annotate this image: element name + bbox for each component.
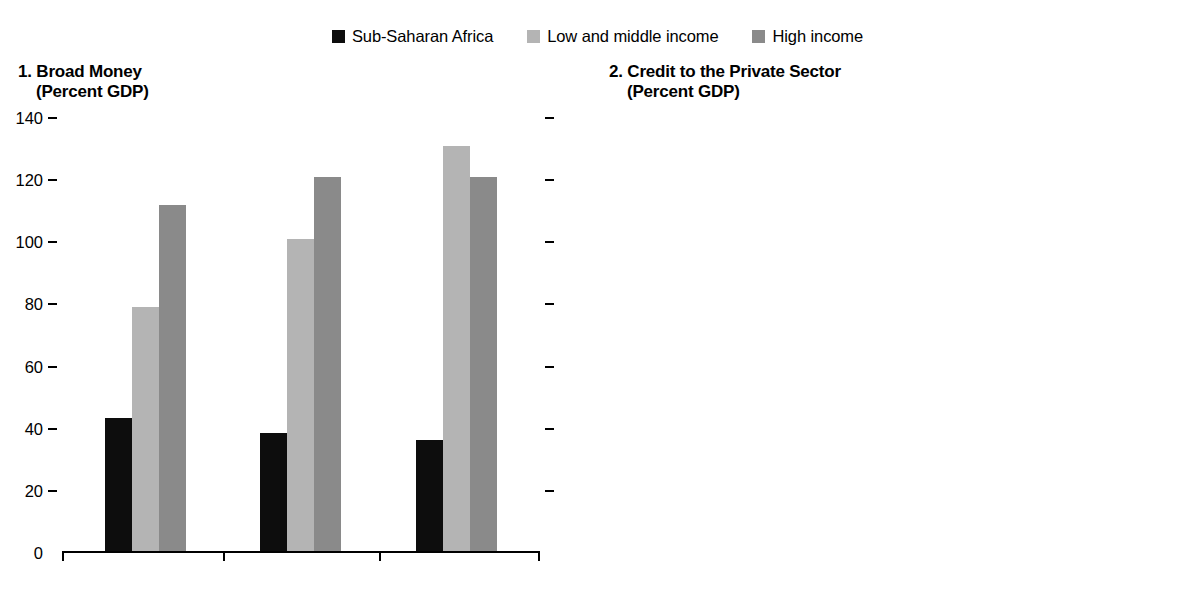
panel-title: 2. Credit to the Private Sector [609,62,841,82]
panel-broad-money: 1. Broad Money (Percent GDP) 02040608010… [0,0,600,598]
y-axis-tick-label: 20 [25,483,43,500]
y-axis-tick-label: 60 [25,358,43,375]
bar [287,239,314,551]
x-axis-line [62,551,540,553]
bar [132,307,159,551]
panel-title: 1. Broad Money [18,62,142,82]
y-axis-tick-mirror [545,428,554,430]
y-axis-tick [48,428,57,430]
y-axis-tick-label: 100 [15,234,43,251]
bar [470,177,497,551]
y-axis-tick-mirror [545,179,554,181]
bar-group [416,118,497,551]
figure-container: Sub-Saharan Africa Low and middle income… [0,0,1195,598]
x-axis-group-tick [223,553,225,561]
y-axis-tick-label: 80 [25,296,43,313]
y-axis-tick-mirror [545,303,554,305]
bar-group [105,118,186,551]
axis-end-tick [538,553,540,561]
bar-group [260,118,341,551]
y-axis-tick-mirror [545,117,554,119]
y-axis-tick-label: 0 [34,545,43,562]
y-axis-tick [48,117,57,119]
y-axis-tick [48,303,57,305]
y-axis-tick-mirror [545,490,554,492]
y-axis-tick-mirror [545,366,554,368]
bar [260,433,287,551]
y-axis-tick [48,179,57,181]
plot-area-broad-money: 02040608010012014020081216 [62,118,540,553]
y-axis-tick [48,241,57,243]
bar [105,418,132,551]
y-axis-tick-label: 120 [15,172,43,189]
bar [416,440,443,551]
y-axis-tick [48,366,57,368]
panel-subtitle: (Percent GDP) [36,82,149,102]
y-axis-tick [48,490,57,492]
bar [159,205,186,551]
bar [443,146,470,551]
y-axis-tick-mirror [545,241,554,243]
y-axis-tick-label: 140 [15,110,43,127]
bar [314,177,341,551]
y-axis-tick-label: 40 [25,420,43,437]
x-axis-group-tick [379,553,381,561]
panel-credit-private-sector: 2. Credit to the Private Sector (Percent… [595,0,1195,598]
axis-end-tick [62,553,64,561]
panel-subtitle: (Percent GDP) [627,82,740,102]
